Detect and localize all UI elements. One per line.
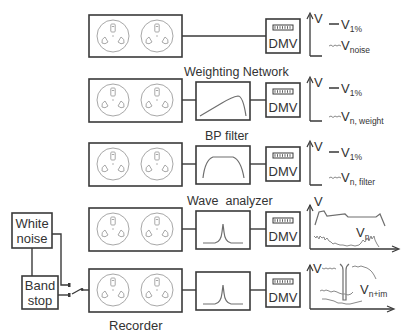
axis-label-v: V	[314, 139, 323, 154]
dmv-label: DMV	[269, 229, 298, 244]
bp-filter-label: BP filter	[205, 129, 249, 143]
row-1-recorder	[89, 15, 182, 57]
axis-label-v: V	[314, 11, 323, 26]
row-2-dmv-meter: DMV	[266, 83, 300, 117]
band-stop-filter: Band stop	[22, 276, 58, 309]
axis-label-v: V	[314, 75, 323, 90]
tape-reel-icon	[97, 213, 129, 245]
svg-text:White: White	[15, 216, 48, 231]
dmv-label: DMV	[269, 36, 298, 51]
legend-vn-filter: Vn, filter	[341, 170, 375, 187]
svg-text:noise: noise	[16, 231, 47, 246]
row-3-recorder	[89, 143, 182, 186]
switch-terminal-icon	[68, 283, 71, 287]
weighting-network-label: Weighting Network	[184, 65, 289, 79]
upper-noise-curve	[322, 268, 336, 269]
legend-vn-weight: Vn, weight	[341, 109, 384, 126]
dmv-label: DMV	[269, 290, 298, 305]
upper-noise-curve	[352, 266, 376, 279]
svg-text:Band: Band	[25, 278, 55, 293]
measurement-setup-diagram: DMV V V1% Vnoise Weighting Network DMV V…	[0, 0, 404, 334]
tape-reel-icon	[141, 20, 173, 52]
row-5-dmv-meter: DMV	[266, 273, 300, 307]
row-3-bp-filter	[196, 146, 250, 184]
row-4-recorder	[89, 208, 182, 251]
row-3-chart: V V1% Vn, filter	[307, 139, 375, 187]
legend-noise-icon	[329, 116, 341, 118]
row-1-chart: V V1% Vnoise	[307, 11, 370, 56]
tape-reel-icon	[141, 148, 173, 180]
spectrum-label-vn-im: Vn+im	[360, 282, 387, 299]
tape-reel-icon	[97, 84, 129, 116]
tape-reel-icon	[97, 148, 129, 180]
dmv-label: DMV	[269, 164, 298, 179]
row-2-chart: V V1% Vn, weight	[307, 75, 384, 126]
selector-switch-icon	[72, 288, 89, 294]
legend-v1: V1%	[341, 81, 362, 98]
legend-noise-icon	[329, 177, 341, 179]
dmv-label: DMV	[269, 100, 298, 115]
spectrum-label-vn: Vn	[356, 225, 370, 242]
legend-vnoise: Vnoise	[341, 38, 370, 55]
row-1-dmv-meter: DMV	[266, 19, 300, 53]
row-5-wave-analyzer	[196, 272, 250, 310]
row-2-weighting-network	[196, 82, 250, 120]
axis-label-v: V	[314, 194, 323, 209]
svg-text:stop: stop	[28, 293, 53, 308]
row-5-recorder	[89, 269, 182, 312]
tape-reel-icon	[141, 84, 173, 116]
tape-reel-icon	[141, 274, 173, 306]
legend-v1: V1%	[341, 145, 362, 162]
row-4-dmv-meter: DMV	[266, 212, 300, 246]
row-5-spectrum-chart: V Vn+im	[307, 261, 394, 312]
row-2-recorder	[89, 79, 182, 122]
switch-terminal-icon	[68, 293, 71, 297]
wave-analyzer-label: Wave analyzer	[187, 194, 273, 208]
recorder-label: Recorder	[109, 318, 163, 333]
lower-noise-curve	[320, 290, 353, 295]
signal-envelope-curve	[315, 211, 385, 226]
tape-reel-icon	[141, 213, 173, 245]
row-4-spectrum-chart: V Vn	[307, 194, 399, 252]
legend-v1: V1%	[341, 17, 362, 34]
row-4-wave-analyzer	[196, 211, 250, 249]
tape-reel-icon	[97, 20, 129, 52]
legend-noise-icon	[329, 45, 341, 47]
white-noise-source: White noise	[12, 213, 52, 248]
lower-noise-curve	[322, 299, 362, 304]
row-3-dmv-meter: DMV	[266, 147, 300, 181]
tape-reel-icon	[97, 274, 129, 306]
spectrum-label-v-top: V	[313, 261, 322, 276]
